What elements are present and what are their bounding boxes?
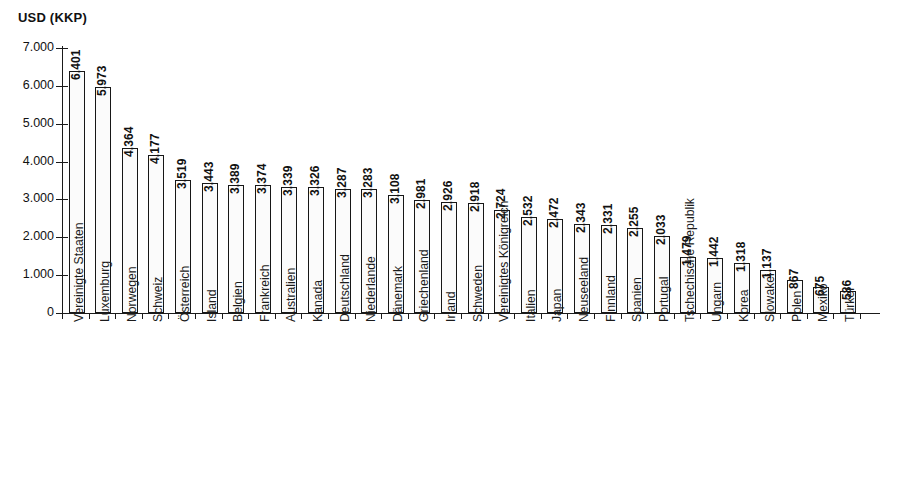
x-axis-tick	[222, 313, 223, 319]
bar-value-label: 3.283	[361, 167, 375, 198]
x-axis-tick	[408, 313, 409, 319]
bar-value-label: 3.326	[308, 166, 322, 197]
y-axis-tick	[56, 124, 68, 125]
y-axis-tick	[56, 275, 68, 276]
x-axis-tick	[89, 313, 90, 319]
bar-value-label: 4.177	[148, 133, 162, 164]
bar-value-label: 3.389	[228, 163, 242, 194]
y-axis-tick	[56, 237, 68, 238]
x-axis-category-label: Australien	[284, 268, 298, 322]
x-axis-tick	[275, 313, 276, 319]
y-axis-tick-label: 5.000	[2, 116, 54, 130]
x-axis-category-label: Slowakei	[763, 273, 777, 322]
x-axis-category-label: Belgien	[231, 281, 245, 322]
x-axis-tick	[727, 313, 728, 319]
x-axis-category-label: Griechenland	[417, 250, 431, 323]
y-axis-tick-label: 7.000	[2, 40, 54, 54]
x-axis-category-label: Italien	[524, 289, 538, 322]
y-axis-tick-label: 0	[2, 305, 54, 319]
x-axis-category-label: Finnland	[604, 275, 618, 322]
bar-value-label: 3.374	[255, 164, 269, 195]
bar-value-label: 2.472	[547, 198, 561, 229]
bar-value-label: 5.973	[95, 65, 109, 96]
bar-value-label: 6.401	[69, 49, 83, 80]
bar-chart-plot-area: 7.0006.0005.0004.0003.0002.0001.0000 6.4…	[0, 0, 905, 482]
x-axis-tick	[301, 313, 302, 319]
x-axis-tick	[807, 313, 808, 319]
x-axis-category-label: Niederlande	[364, 256, 378, 322]
x-axis-tick	[328, 313, 329, 319]
x-axis-tick	[833, 313, 834, 319]
x-axis-tick	[674, 313, 675, 319]
x-axis-tick	[62, 313, 63, 319]
x-axis-category-label: Japan	[550, 289, 564, 322]
x-axis-category-label: Vereinigte Staaten	[72, 222, 86, 322]
x-axis-category-label: Mexiko	[816, 283, 830, 322]
bar-value-label: 2.532	[521, 196, 535, 227]
bar-value-label: 2.033	[654, 215, 668, 246]
chart-page: USD (KKP) 7.0006.0005.0004.0003.0002.000…	[0, 0, 905, 482]
x-axis-tick	[195, 313, 196, 319]
bar-value-label: 2.926	[441, 181, 455, 212]
y-axis-tick-label: 3.000	[2, 191, 54, 205]
y-axis-tick	[56, 199, 68, 200]
x-axis-tick	[594, 313, 595, 319]
bar-value-label: 2.343	[574, 203, 588, 234]
x-axis-tick	[700, 313, 701, 319]
x-axis-category-label: Kanada	[311, 280, 325, 322]
y-axis-tick-label: 2.000	[2, 229, 54, 243]
y-axis-tick	[56, 86, 68, 87]
x-axis-category-label: Türkei	[843, 288, 857, 322]
bar-value-label: 867	[787, 269, 801, 289]
x-axis-tick	[381, 313, 382, 319]
x-axis-tick	[754, 313, 755, 319]
bar-value-label: 2.981	[414, 179, 428, 210]
x-axis-tick	[168, 313, 169, 319]
x-axis-category-label: Polen	[790, 291, 804, 322]
x-axis-tick	[248, 313, 249, 319]
x-axis-tick	[860, 313, 861, 319]
x-axis-tick	[461, 313, 462, 319]
bar-value-label: 2.331	[601, 203, 615, 234]
x-axis-category-label: Luxemburg	[98, 261, 112, 322]
x-axis-category-label: Ungarn	[710, 282, 724, 322]
y-axis-tick	[56, 48, 68, 49]
bar-value-label: 2.918	[468, 181, 482, 212]
bar-value-label: 3.443	[202, 161, 216, 192]
x-axis-tick	[142, 313, 143, 319]
y-axis-tick-label: 1.000	[2, 267, 54, 281]
x-axis-category-label: Schweiz	[151, 277, 165, 322]
bar-value-label: 1.442	[707, 237, 721, 268]
bar-value-label: 3.287	[335, 167, 349, 198]
x-axis-tick	[567, 313, 568, 319]
y-axis-tick-label: 4.000	[2, 154, 54, 168]
x-axis-tick	[647, 313, 648, 319]
x-axis-category-label: Spanien	[630, 277, 644, 322]
x-axis-category-label: Frankreich	[258, 264, 272, 322]
x-axis-category-label: Norwegen	[125, 266, 139, 322]
x-axis-category-label: Österreich	[178, 266, 192, 322]
x-axis-tick	[355, 313, 356, 319]
x-axis-category-label: Vereinigtes Königreich	[497, 201, 511, 322]
x-axis-category-label: Deutschland	[338, 254, 352, 322]
x-axis-category-label: Schweden	[471, 265, 485, 322]
x-axis-tick	[541, 313, 542, 319]
y-axis-tick-label: 6.000	[2, 78, 54, 92]
x-axis-tick	[488, 313, 489, 319]
x-axis-tick	[434, 313, 435, 319]
bar-value-label: 3.339	[281, 165, 295, 196]
bar-value-label: 1.318	[734, 242, 748, 273]
bar-value-label: 4.364	[122, 126, 136, 157]
y-axis-tick	[56, 162, 68, 163]
x-axis-category-label: Korea	[737, 289, 751, 322]
x-axis-category-label: Dänemark	[391, 266, 405, 322]
bar-value-label: 3.108	[388, 174, 402, 205]
x-axis-tick	[780, 313, 781, 319]
bar-value-label: 2.255	[627, 206, 641, 237]
x-axis-category-label: Island	[205, 289, 219, 322]
x-axis-category-label: Portugal	[657, 277, 671, 322]
x-axis-category-label: Irland	[444, 292, 458, 323]
x-axis-tick	[621, 313, 622, 319]
x-axis-category-label: Tschechische Republik	[683, 198, 697, 322]
x-axis-tick	[514, 313, 515, 319]
